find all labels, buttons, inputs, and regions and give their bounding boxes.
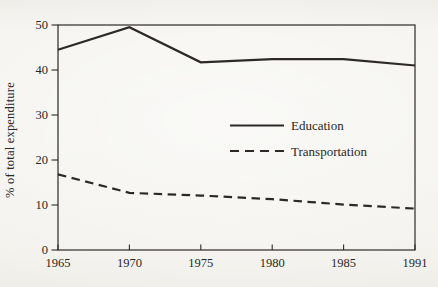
legend-label-education: Education [291,118,344,133]
x-tick-label: 1985 [331,256,356,270]
x-tick-label: 1980 [260,256,285,270]
y-tick-label: 10 [36,198,49,212]
expenditure-line-chart: 01020304050196519701975198019851991% of … [0,0,438,287]
plot-frame [58,25,415,250]
scanned-figure-page: 01020304050196519701975198019851991% of … [0,0,438,287]
y-tick-label: 50 [36,18,49,32]
y-tick-label: 40 [36,63,49,77]
education-line [58,27,415,65]
x-tick-label: 1975 [188,256,213,270]
x-tick-label: 1991 [403,256,428,270]
transportation-line [58,174,415,208]
y-tick-label: 20 [36,153,49,167]
x-tick-label: 1970 [117,256,142,270]
y-tick-label: 30 [36,108,49,122]
legend: EducationTransportation [230,118,368,159]
legend-label-transportation: Transportation [291,144,368,159]
y-axis-label: % of total expenditure [3,82,17,198]
x-tick-label: 1965 [46,256,71,270]
